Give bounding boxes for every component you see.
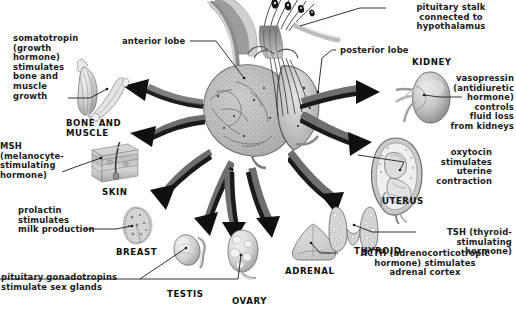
label-msh: MSH (melanocyte- stimulating hormone) (0, 142, 74, 180)
organ-label-skin: SKIN (102, 187, 127, 197)
label-posterior-lobe: posterior lobe (340, 46, 414, 56)
organ-label-uterus: UTERUS (382, 196, 424, 206)
label-acth: ACTH (adrenocorticotropic hormone) stimu… (336, 249, 514, 278)
label-prolactin: prolactin stimulates milk production (18, 206, 110, 235)
organ-label-ovary: OVARY (232, 296, 267, 306)
label-somatotropin: somatotropin (growth hormone) stimulates… (13, 34, 93, 101)
organ-label-kidney: KIDNEY (412, 57, 452, 67)
label-vasopressin: vasopressin (antidiuretic hormone) contr… (440, 74, 514, 132)
organ-label-testis: TESTIS (167, 289, 203, 299)
organ-label-adrenal: ADRENAL (285, 266, 334, 276)
label-oxytocin: oxytocin stimulates uterine contraction (414, 148, 492, 186)
organ-label-bone-and-muscle: BONE AND MUSCLE (66, 118, 126, 138)
pituitary-hormone-diagram: somatotropin (growth hormone) stimulates… (0, 0, 516, 309)
label-gonadotropins: pituitary gonadotropins stimulate sex gl… (1, 273, 181, 292)
label-pituitary-stalk: pituitary stalk connected to hypothalamu… (390, 3, 512, 32)
organ-label-breast: BREAST (116, 247, 157, 257)
label-anterior-lobe: anterior lobe (122, 37, 190, 47)
